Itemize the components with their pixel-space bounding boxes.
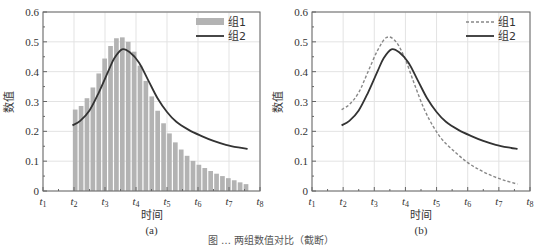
y-tick-label: 0.4 bbox=[25, 66, 39, 78]
bar bbox=[161, 123, 166, 191]
y-axis: 00.10.20.30.40.50.6 bbox=[25, 6, 47, 197]
bar bbox=[179, 150, 184, 191]
y-tick-label: 0.3 bbox=[294, 96, 308, 108]
bar bbox=[138, 66, 143, 191]
y-tick-label: 0.1 bbox=[294, 155, 308, 167]
bar bbox=[126, 42, 131, 191]
x-axis: t1t2t3t4t5t6t7t8 bbox=[308, 187, 533, 209]
x-tick-label: t1 bbox=[308, 195, 315, 209]
legend-label: 组1 bbox=[498, 15, 516, 29]
bar bbox=[155, 111, 160, 191]
bar bbox=[173, 142, 178, 191]
x-tick-label: t2 bbox=[340, 195, 347, 209]
bar bbox=[144, 81, 149, 191]
x-tick-label: t2 bbox=[70, 195, 77, 209]
y-axis-title: 数值 bbox=[272, 91, 285, 113]
bar bbox=[220, 176, 225, 191]
x-tick-label: t5 bbox=[163, 195, 170, 209]
bar bbox=[238, 182, 243, 191]
bar bbox=[208, 171, 213, 191]
x-tick-label: t3 bbox=[371, 195, 378, 209]
y-tick-label: 0.1 bbox=[25, 155, 39, 167]
chart-panel-b: 00.10.20.30.40.50.6t1t2t3t4t5t6t7t8时间数值(… bbox=[272, 6, 534, 237]
y-tick-label: 0.2 bbox=[25, 125, 39, 137]
y-tick-label: 0.5 bbox=[25, 36, 39, 48]
x-tick-label: t4 bbox=[132, 195, 139, 209]
line bbox=[342, 37, 518, 184]
x-tick-label: t1 bbox=[39, 195, 46, 209]
series-1 bbox=[342, 37, 518, 184]
series-2 bbox=[342, 49, 518, 149]
bar bbox=[191, 161, 196, 191]
x-tick-label: t4 bbox=[402, 195, 409, 209]
legend: 组1组2 bbox=[196, 15, 246, 43]
panel-label: (b) bbox=[415, 224, 428, 237]
x-axis-title: 时间 bbox=[410, 209, 432, 222]
bar bbox=[197, 165, 202, 191]
y-tick-label: 0.3 bbox=[25, 96, 39, 108]
x-tick-label: t7 bbox=[495, 195, 502, 209]
x-tick-label: t3 bbox=[101, 195, 108, 209]
chart-panel-a: 00.10.20.30.40.50.6t1t2t3t4t5t6t7t8时间数值(… bbox=[3, 6, 264, 237]
y-tick-label: 0.5 bbox=[294, 36, 308, 48]
y-tick-label: 0.6 bbox=[294, 6, 308, 18]
legend-label: 组2 bbox=[498, 29, 516, 43]
x-tick-label: t6 bbox=[464, 195, 471, 209]
bar bbox=[73, 110, 78, 191]
y-axis: 00.10.20.30.40.50.6 bbox=[294, 6, 316, 197]
bar bbox=[202, 168, 207, 191]
x-axis-title: 时间 bbox=[141, 209, 163, 222]
bar bbox=[132, 52, 137, 191]
figure: 00.10.20.30.40.50.6t1t2t3t4t5t6t7t8时间数值(… bbox=[0, 0, 543, 245]
line bbox=[342, 49, 518, 149]
x-tick-label: t6 bbox=[194, 195, 201, 209]
bar bbox=[149, 96, 154, 191]
bar bbox=[232, 180, 237, 191]
y-tick-label: 0.4 bbox=[294, 66, 308, 78]
figure-caption: 图 … 两组数值对比（截断） bbox=[208, 234, 334, 245]
x-tick-label: t5 bbox=[433, 195, 440, 209]
y-tick-label: 0.2 bbox=[294, 125, 308, 137]
bar bbox=[120, 37, 125, 191]
series-1 bbox=[73, 37, 249, 191]
legend-label: 组1 bbox=[228, 15, 246, 29]
panel-label: (a) bbox=[145, 224, 158, 237]
y-axis-title: 数值 bbox=[3, 91, 16, 113]
bar bbox=[226, 178, 231, 191]
bar bbox=[214, 174, 219, 191]
bar bbox=[185, 156, 190, 191]
y-tick-label: 0.6 bbox=[25, 6, 39, 18]
bar bbox=[114, 38, 119, 191]
bar bbox=[167, 133, 172, 191]
x-tick-label: t8 bbox=[256, 195, 263, 209]
legend-swatch bbox=[196, 18, 224, 25]
x-tick-label: t8 bbox=[526, 195, 533, 209]
legend-label: 组2 bbox=[228, 29, 246, 43]
x-tick-label: t7 bbox=[225, 195, 232, 209]
legend: 组1组2 bbox=[466, 15, 516, 43]
